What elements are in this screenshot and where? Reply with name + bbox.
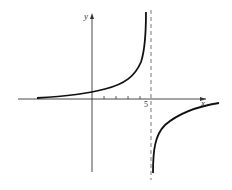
y-axis-arrow-icon (90, 13, 94, 19)
right-branch-curve (153, 103, 219, 173)
left-branch-curve (37, 12, 146, 98)
chart-canvas (0, 0, 232, 190)
y-axis-label: y (84, 12, 88, 21)
x-axis-label: x (201, 99, 205, 108)
tick-label-5: 5 (144, 101, 148, 109)
